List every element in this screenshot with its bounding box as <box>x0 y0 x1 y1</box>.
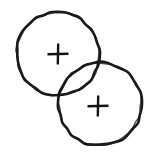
sketch-svg <box>0 0 154 155</box>
figure-canvas: Two Overlapping Circles With Center Cros… <box>0 0 154 155</box>
